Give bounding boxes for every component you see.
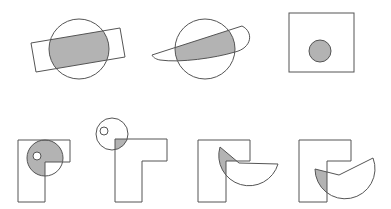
panel-l-sector-offset [299, 140, 375, 202]
panel-circle-rectangle [31, 19, 125, 79]
panel-l-circle-hole [18, 140, 70, 202]
panel-circle-crescent [152, 19, 250, 79]
panel-l-circle-corner [96, 118, 167, 202]
panel-square-circle [289, 13, 354, 72]
diagram-canvas [0, 0, 391, 209]
panel-l-sector [198, 140, 278, 202]
